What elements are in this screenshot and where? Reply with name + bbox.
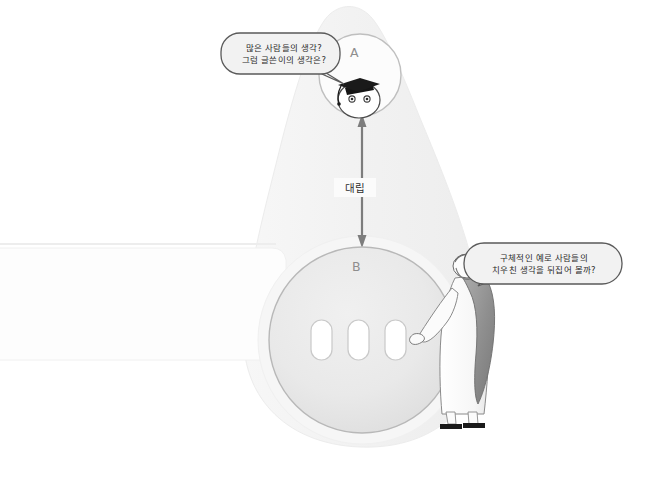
philosopher-leg-left — [446, 412, 456, 424]
pill-slot — [348, 320, 369, 360]
left-band — [0, 248, 286, 360]
illustration-canvas: 많은 사람들의 생각? 그럼 글쓴이의 생각은? 구체적인 예로 사람들의 치우… — [0, 0, 647, 483]
pill-slot — [385, 320, 406, 360]
bubble-a-body — [221, 33, 340, 74]
philosopher-leg-right — [468, 412, 478, 424]
bubble-b-body — [464, 243, 622, 284]
graduate-eye-right-pupil — [366, 98, 369, 101]
pill-slot — [311, 320, 332, 360]
graduation-cap-tassel-knot — [337, 102, 341, 106]
pill-slots — [311, 320, 406, 360]
illustration-svg — [0, 0, 647, 483]
bubble-b — [464, 243, 622, 286]
graduate-eye-left-pupil — [351, 98, 354, 101]
philosopher-sandal-left — [440, 424, 462, 429]
philosopher-sandal-right — [463, 423, 485, 428]
